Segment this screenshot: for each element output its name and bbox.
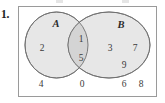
element-intersection-2: 5	[75, 53, 87, 63]
element-b-only-2: 7	[129, 43, 141, 53]
element-outside-3: 6	[118, 79, 130, 89]
element-outside-1: 4	[35, 79, 47, 89]
element-outside-2: 0	[76, 79, 88, 89]
element-b-only-1: 3	[104, 43, 116, 53]
scan-artifact-right	[122, 0, 129, 3]
venn-diagram-figure: 1. A B 2 1 5 3 7 9 4 0 6 8	[0, 0, 165, 103]
element-a-only-1: 2	[36, 43, 48, 53]
scan-artifact-left	[56, 0, 63, 3]
element-b-only-3: 9	[118, 60, 130, 70]
set-label-b: B	[114, 19, 128, 30]
problem-number: 1.	[1, 8, 17, 21]
element-intersection-1: 1	[75, 34, 87, 44]
element-outside-4: 8	[135, 79, 147, 89]
set-label-a: A	[49, 18, 63, 29]
